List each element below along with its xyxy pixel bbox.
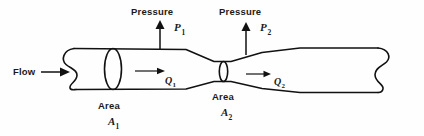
area-2-symbol: A 2 (220, 106, 233, 122)
q1-subscript: 1 (173, 81, 177, 89)
flowrate-arrow-1-icon (135, 68, 165, 74)
a1-base: A (107, 115, 115, 127)
area-2-label: Area (212, 91, 234, 102)
pipe-left-end-icon (63, 49, 77, 90)
cross-section-2-icon (219, 62, 227, 82)
cross-section-1-icon (105, 49, 122, 90)
flowrate-arrow-2-icon (246, 71, 271, 77)
pressure-arrow-2-icon (242, 22, 251, 55)
p2-base: P (260, 21, 267, 33)
p1-subscript: 1 (182, 28, 186, 37)
diagram-canvas: Flow Pressure P 1 Pressure P 2 Q 1 Q 2 A… (0, 0, 424, 136)
pressure-2-symbol: P 2 (260, 21, 272, 37)
flowrate-2-symbol: Q 2 (274, 76, 286, 90)
a1-subscript: 1 (116, 122, 120, 131)
area-1-label: Area (98, 100, 120, 111)
a2-subscript: 2 (229, 113, 233, 122)
flowrate-1-symbol: Q 1 (165, 75, 177, 89)
pressure-arrow-1-icon (156, 20, 165, 49)
flow-arrow-icon (41, 68, 70, 77)
p2-subscript: 2 (268, 28, 272, 37)
q2-subscript: 2 (282, 82, 286, 90)
venturi-flow-diagram: Flow Pressure P 1 Pressure P 2 Q 1 Q 2 A… (0, 0, 424, 136)
pressure-1-symbol: P 1 (174, 21, 186, 37)
pressure-2-label: Pressure (219, 6, 261, 17)
q2-base: Q (274, 76, 281, 87)
flow-label: Flow (13, 66, 36, 77)
a2-base: A (220, 106, 228, 118)
area-1-symbol: A 1 (107, 115, 120, 131)
p1-base: P (174, 21, 181, 33)
pipe-right-end-icon (375, 48, 389, 93)
pressure-1-label: Pressure (131, 6, 173, 17)
q1-base: Q (165, 75, 172, 86)
